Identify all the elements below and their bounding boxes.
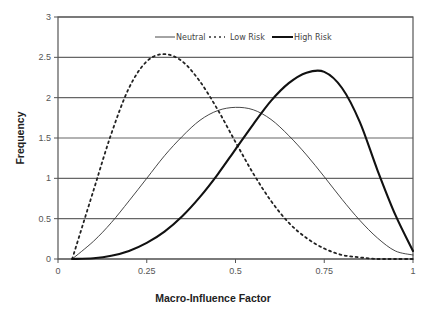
y-tick-label: 0 [46, 254, 51, 264]
legend-neutral: Neutral [176, 33, 206, 42]
legend-low-risk: Low Risk [230, 33, 265, 42]
y-tick-label: 2 [46, 93, 51, 103]
series-lines [72, 54, 413, 259]
y-tick-label: 2.5 [38, 52, 51, 62]
y-tick-label: 0.5 [38, 214, 51, 224]
x-axis-title: Macro-Influence Factor [155, 292, 271, 304]
y-tick-label: 1 [46, 173, 51, 183]
x-tick-label: 0 [55, 266, 60, 276]
legend-high-risk: High Risk [294, 33, 332, 42]
x-axis-ticks: 00.250.50.751 [55, 259, 415, 276]
series-high-risk [72, 70, 413, 259]
y-tick-label: 1.5 [38, 133, 51, 143]
x-tick-label: 0.75 [315, 266, 333, 276]
series-neutral [72, 107, 413, 259]
x-tick-label: 0.5 [229, 266, 242, 276]
x-tick-label: 0.25 [138, 266, 156, 276]
x-tick-label: 1 [410, 266, 415, 276]
series-low-risk [72, 54, 413, 259]
legend: Neutral Low Risk High Risk [155, 33, 332, 42]
y-tick-label: 3 [46, 12, 51, 22]
y-axis-ticks: 00.511.522.53 [38, 12, 58, 264]
y-axis-title: Frequency [14, 111, 26, 164]
line-chart: 00.511.522.53 00.250.50.751 Neutral Low … [0, 0, 427, 317]
